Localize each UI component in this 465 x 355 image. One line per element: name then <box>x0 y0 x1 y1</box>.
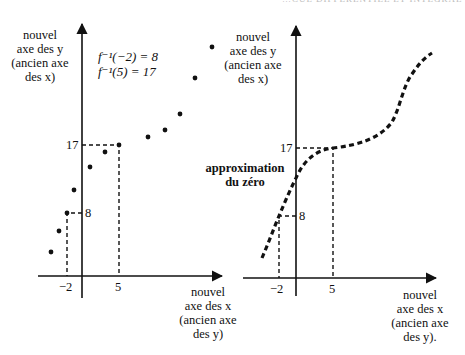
left-y-tick-17: 17 <box>66 138 79 152</box>
left-x-axis-label: nouvel axe des x (ancien axe des y) <box>170 285 246 341</box>
label-line: des y). <box>380 330 460 344</box>
right-y-axis-label: nouvel axe des y (ancien axe des x) <box>214 30 292 86</box>
right-y-tick-8: 8 <box>299 209 305 223</box>
label-line: des y) <box>170 327 246 341</box>
label-line: (ancien axe <box>170 313 246 327</box>
label-line: nouvel <box>380 288 460 302</box>
label-line: (ancien axe <box>214 58 292 72</box>
label-line: (ancien axe <box>2 56 78 70</box>
left-y-axis-label: nouvel axe des y (ancien axe des x) <box>2 28 78 84</box>
left-guides <box>67 145 119 276</box>
label-line: des x) <box>2 70 78 84</box>
label-line: axe des x <box>380 302 460 316</box>
label-line: du zéro <box>200 175 290 189</box>
label-line: axe des y <box>214 44 292 58</box>
right-x-tick-5: 5 <box>329 282 335 296</box>
formula-1: f⁻¹(−2) = 8 <box>98 49 158 64</box>
label-line: axe des x <box>170 299 246 313</box>
left-x-tick-neg2: −2 <box>59 280 72 294</box>
left-x-tick-5: 5 <box>115 280 121 294</box>
right-x-axis-label: nouvel axe des x (ancien axe des y). <box>380 288 460 344</box>
right-y-tick-17: 17 <box>280 141 293 155</box>
label-line: nouvel <box>214 30 292 44</box>
formula-2: f⁻¹(5) = 17 <box>98 64 156 79</box>
zero-approximation-label: approximation du zéro <box>200 161 290 189</box>
label-line: nouvel <box>2 28 78 42</box>
label-line: des x) <box>214 72 292 86</box>
label-line: (ancien axe <box>380 316 460 330</box>
label-line: axe des y <box>2 42 78 56</box>
label-line: approximation <box>200 161 290 175</box>
left-y-tick-8: 8 <box>85 206 91 220</box>
label-line: nouvel <box>170 285 246 299</box>
right-x-tick-neg2: −2 <box>270 282 283 296</box>
